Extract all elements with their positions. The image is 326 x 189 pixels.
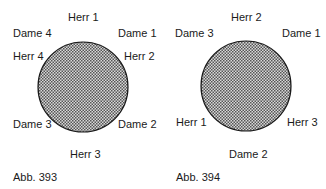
seat-left-lower: Herr 1 (176, 116, 207, 128)
seat-right-upper: Herr 2 (124, 50, 155, 62)
seat-right-lower: Herr 3 (287, 116, 318, 128)
figure-caption: Abb. 393 (13, 171, 57, 183)
figure-caption: Abb. 394 (176, 171, 220, 183)
figure-393: Herr 1 Dame 1 Herr 2 Dame 2 Herr 3 Dame … (0, 0, 163, 189)
seat-left-lower: Dame 3 (13, 118, 52, 130)
seat-top-left: Dame 4 (13, 27, 52, 39)
seat-bottom: Herr 3 (70, 148, 101, 160)
figure-394: Herr 2 Dame 1 Herr 3 Dame 2 Herr 1 Dame … (163, 0, 326, 189)
seat-bottom: Dame 2 (229, 148, 268, 160)
seat-top: Herr 1 (68, 11, 99, 23)
seat-top-right: Dame 1 (282, 27, 321, 39)
seat-right-lower: Dame 2 (118, 118, 157, 130)
seat-top-left: Dame 3 (175, 27, 214, 39)
seat-top: Herr 2 (231, 11, 262, 23)
seat-left-upper: Herr 4 (13, 50, 44, 62)
seat-top-right: Dame 1 (118, 27, 157, 39)
